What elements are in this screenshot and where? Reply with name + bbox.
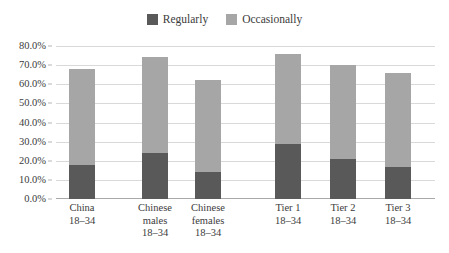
bar-group[interactable] xyxy=(69,46,95,199)
x-axis-category-label: China18–34 xyxy=(42,202,122,227)
chart-legend: Regularly Occasionally xyxy=(0,14,449,25)
y-axis-tick-mark xyxy=(48,46,52,47)
y-axis-tick-mark xyxy=(48,160,52,161)
y-axis-tick-mark xyxy=(48,103,52,104)
bar-segment-occasionally[interactable] xyxy=(69,69,95,165)
bar-segment-regularly[interactable] xyxy=(69,165,95,199)
y-axis-tick-mark xyxy=(48,199,52,200)
y-axis: 80.0%70.0%60.0%50.0%40.0%30.0%20.0%10.0%… xyxy=(0,46,52,199)
bar-stack xyxy=(142,57,168,199)
y-axis-tick-label: 60.0% xyxy=(19,79,46,89)
bar-segment-occasionally[interactable] xyxy=(275,54,301,144)
bar-segment-regularly[interactable] xyxy=(330,159,356,199)
y-axis-tick-label: 20.0% xyxy=(19,156,46,166)
bar-segment-occasionally[interactable] xyxy=(142,57,168,153)
y-axis-tick-mark xyxy=(48,179,52,180)
legend-item-occasionally: Occasionally xyxy=(226,14,302,25)
bar-stack xyxy=(385,73,411,199)
x-axis-labels: China18–34Chinesemales18–34Chinesefemale… xyxy=(56,202,435,250)
y-axis-tick-label: 30.0% xyxy=(19,137,46,147)
y-axis-tick-mark xyxy=(48,122,52,123)
bar-group[interactable] xyxy=(275,46,301,199)
bar-segment-occasionally[interactable] xyxy=(195,80,221,172)
legend-item-regularly: Regularly xyxy=(147,14,208,25)
legend-label-occasionally: Occasionally xyxy=(242,14,302,25)
bar-stack xyxy=(69,69,95,199)
y-axis-tick-label: 40.0% xyxy=(19,118,46,128)
bar-segment-regularly[interactable] xyxy=(195,172,221,199)
bar-segment-regularly[interactable] xyxy=(385,167,411,200)
bar-group[interactable] xyxy=(330,46,356,199)
y-axis-tick-mark xyxy=(48,65,52,66)
bars-layer xyxy=(56,46,435,199)
y-axis-tick-mark xyxy=(48,141,52,142)
y-axis-tick-label: 10.0% xyxy=(19,175,46,185)
y-axis-tick-label: 70.0% xyxy=(19,60,46,70)
bar-segment-occasionally[interactable] xyxy=(385,73,411,167)
y-axis-tick-mark xyxy=(48,84,52,85)
bar-segment-occasionally[interactable] xyxy=(330,65,356,159)
legend-swatch-occasionally xyxy=(226,14,237,25)
legend-swatch-regularly xyxy=(147,14,158,25)
bar-group[interactable] xyxy=(385,46,411,199)
legend-label-regularly: Regularly xyxy=(163,14,208,25)
y-axis-tick-label: 50.0% xyxy=(19,98,46,108)
x-axis-category-label: Chinesefemales18–34 xyxy=(168,202,248,240)
bar-group[interactable] xyxy=(195,46,221,199)
y-axis-tick-label: 80.0% xyxy=(19,41,46,51)
bar-stack xyxy=(330,65,356,199)
bar-group[interactable] xyxy=(142,46,168,199)
x-axis-category-label: Tier 318–34 xyxy=(358,202,438,227)
bar-segment-regularly[interactable] xyxy=(142,153,168,199)
bar-segment-regularly[interactable] xyxy=(275,144,301,199)
bar-stack xyxy=(195,80,221,199)
bar-stack xyxy=(275,54,301,199)
